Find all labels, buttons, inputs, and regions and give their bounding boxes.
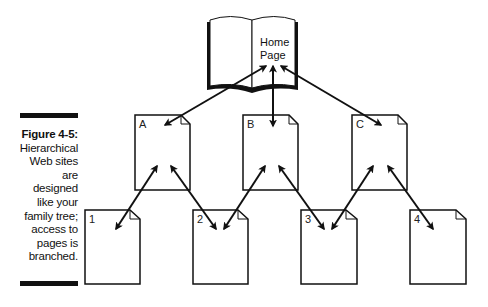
doc-label-4: 4: [414, 213, 420, 225]
doc-label-2: 2: [197, 213, 203, 225]
doc-label-1: 1: [89, 213, 95, 225]
doc-label-a: A: [139, 118, 147, 130]
document-icon: A: [135, 115, 190, 190]
home-page-label-line2: Page: [260, 49, 286, 61]
document-icon: 2: [193, 210, 248, 284]
doc-label-b: B: [247, 118, 254, 130]
document-icon: 4: [410, 210, 466, 284]
document-icon: B: [243, 115, 298, 190]
document-icon: 3: [301, 210, 357, 284]
open-book-icon: Home Page: [207, 17, 298, 94]
doc-label-3: 3: [305, 213, 311, 225]
doc-label-c: C: [356, 118, 364, 130]
document-icon: 1: [85, 210, 140, 284]
home-page-label-line1: Home: [260, 36, 289, 48]
hierarchy-diagram: Home Page A B C 1 2 3 4: [0, 0, 488, 307]
arrow-home-c: [281, 66, 381, 125]
document-icon: C: [352, 115, 407, 190]
